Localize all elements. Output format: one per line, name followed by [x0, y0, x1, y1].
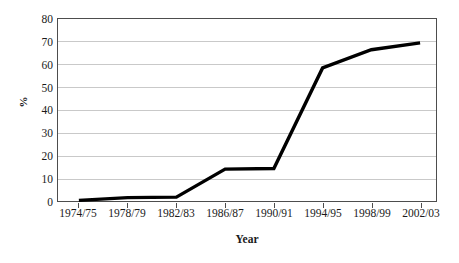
y-tick-label: 30 [20, 128, 57, 139]
x-tick-label: 1974/75 [59, 207, 97, 220]
data-series-line [58, 19, 436, 201]
x-tick-label: 2002/03 [402, 207, 440, 220]
plot-area [57, 18, 437, 202]
y-tick-label: 80 [20, 14, 57, 25]
x-tick-label: 1982/83 [157, 207, 195, 220]
y-axis-tick-labels: 80 70 60 50 40 30 20 10 0 [20, 0, 57, 263]
y-tick-label: 20 [20, 151, 57, 162]
y-tick-label: 0 [20, 197, 57, 208]
x-tick-label: 1986/87 [206, 207, 244, 220]
line-chart-figure: % 80 70 60 50 40 30 20 10 0 1974/75 1978… [0, 0, 459, 263]
x-tick-label: 1978/79 [108, 207, 146, 220]
y-tick-label: 40 [20, 105, 57, 116]
x-tick-label: 1998/99 [353, 207, 391, 220]
y-tick-label: 60 [20, 60, 57, 71]
y-tick-label: 70 [20, 37, 57, 48]
x-tick-label: 1994/95 [304, 207, 342, 220]
y-tick-label: 50 [20, 83, 57, 94]
x-tick-label: 1990/91 [255, 207, 293, 220]
x-axis-title: Year [57, 233, 437, 245]
y-tick-label: 10 [20, 174, 57, 185]
